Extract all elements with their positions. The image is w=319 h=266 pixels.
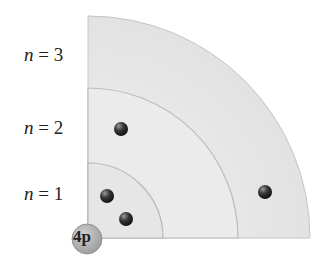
shell-label-n1: n = 1 bbox=[24, 183, 63, 205]
label-var: n bbox=[24, 44, 34, 65]
label-var: n bbox=[24, 117, 34, 138]
electron-n1-b bbox=[119, 212, 133, 226]
label-eq: = bbox=[34, 183, 54, 204]
label-val: 1 bbox=[54, 183, 64, 204]
electron-n1-a bbox=[100, 189, 114, 203]
electron-n3 bbox=[258, 185, 272, 199]
electron-n2 bbox=[114, 122, 128, 136]
label-eq: = bbox=[34, 44, 54, 65]
label-var: n bbox=[24, 183, 34, 204]
label-eq: = bbox=[34, 117, 54, 138]
label-val: 3 bbox=[54, 44, 64, 65]
label-val: 2 bbox=[54, 117, 64, 138]
nucleus-label: 4p bbox=[73, 227, 91, 247]
shell-label-n2: n = 2 bbox=[24, 117, 63, 139]
shell-label-n3: n = 3 bbox=[24, 44, 63, 66]
